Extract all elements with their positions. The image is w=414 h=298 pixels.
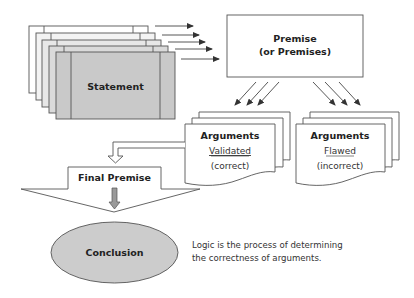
caption: Logic is the process of determining the … bbox=[192, 240, 343, 263]
arrow-down-left-icon bbox=[247, 82, 268, 105]
arguments-flawed-note: (incorrect) bbox=[317, 161, 364, 171]
arrow-down-left-icon bbox=[235, 82, 256, 105]
arguments-flawed-status: Flawed bbox=[324, 146, 356, 156]
arguments-validated-title: Arguments bbox=[201, 130, 260, 141]
final-premise-shape: Final Premise bbox=[21, 167, 200, 212]
statement-card: Statement bbox=[56, 52, 175, 119]
final-premise-label: Final Premise bbox=[78, 172, 151, 183]
premise-sublabel: (or Premises) bbox=[259, 46, 331, 57]
caption-line-1: Logic is the process of determining bbox=[192, 240, 343, 250]
arguments-validated-status: Validated bbox=[209, 146, 251, 156]
premise-label: Premise bbox=[273, 33, 316, 44]
premise-box: Premise (or Premises) bbox=[227, 15, 363, 77]
conclusion-label: Conclusion bbox=[85, 247, 143, 258]
arguments-flawed-stack: Arguments Flawed (incorrect) bbox=[296, 112, 399, 185]
arguments-validated-note: (correct) bbox=[211, 161, 250, 171]
statement-label: Statement bbox=[87, 81, 144, 92]
caption-line-2: the correctness of arguments. bbox=[192, 253, 322, 263]
arrow-down-right-icon bbox=[325, 82, 347, 105]
logic-diagram: Statement Premise (or Premises) Argument… bbox=[0, 0, 414, 298]
statement-stack: Statement bbox=[29, 26, 175, 119]
arguments-flawed-title: Arguments bbox=[311, 130, 370, 141]
arrow-down-left-icon bbox=[258, 82, 279, 105]
premise-to-arguments-arrows bbox=[235, 82, 360, 105]
arrow-down-right-icon bbox=[313, 82, 335, 105]
arrow-down-right-icon bbox=[339, 82, 360, 105]
arguments-validated-stack: Arguments Validated (correct) bbox=[185, 112, 290, 185]
bent-arrow-icon bbox=[108, 142, 185, 163]
conclusion-node: Conclusion bbox=[51, 222, 178, 283]
